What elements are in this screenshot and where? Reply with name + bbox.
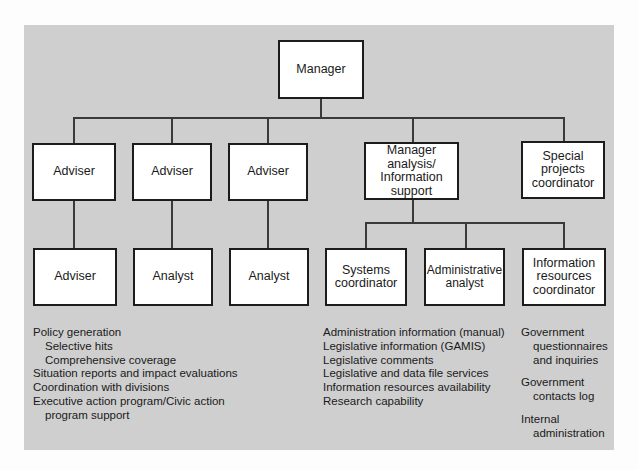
- note-line: Research capability: [323, 395, 505, 409]
- node-analyst: Analyst: [133, 248, 213, 306]
- node-analyst: Analyst: [229, 248, 309, 306]
- node-adviser: Adviser: [132, 143, 212, 201]
- note-line: Policy generation: [33, 326, 238, 340]
- note-line: Situation reports and impact evaluations: [33, 367, 238, 381]
- note-line: Government: [521, 326, 608, 340]
- notes-left: Policy generation Selective hits Compreh…: [33, 326, 238, 423]
- connector: [563, 222, 565, 248]
- note-line: administration: [521, 427, 608, 441]
- note-line: Legislative information (GAMIS): [323, 340, 505, 354]
- note-line: program support: [33, 409, 238, 423]
- connector: [412, 117, 414, 143]
- node-information-resources: Information resources coordinator: [522, 248, 606, 306]
- connector: [563, 117, 565, 142]
- connector: [171, 200, 173, 248]
- connector: [73, 117, 564, 119]
- node-adviser: Adviser: [32, 143, 116, 201]
- note-line: Comprehensive coverage: [33, 354, 238, 368]
- connector: [465, 222, 467, 248]
- node-adviser: Adviser: [33, 248, 117, 306]
- notes-middle: Administration information (manual) Legi…: [323, 326, 505, 409]
- note-line: questionnaires: [521, 340, 608, 354]
- node-manager: Manager: [278, 40, 364, 99]
- note-line: Administration information (manual): [323, 326, 505, 340]
- connector: [320, 98, 322, 119]
- note-line: Information resources availability: [323, 381, 505, 395]
- connector: [73, 200, 75, 248]
- note-line: and inquiries: [521, 354, 608, 368]
- note-line: Legislative comments: [323, 354, 505, 368]
- connector: [267, 117, 269, 144]
- node-special-projects: Special projects coordinator: [521, 141, 605, 199]
- note-line: contacts log: [521, 390, 608, 404]
- connector: [73, 117, 75, 144]
- node-manager-analysis: Manager analysis/ Information support: [364, 142, 459, 200]
- node-adviser: Adviser: [228, 143, 308, 201]
- note-line: Internal: [521, 413, 608, 427]
- notes-right: Government questionnaires and inquiries …: [521, 326, 608, 441]
- node-systems-coordinator: Systems coordinator: [325, 248, 407, 306]
- note-line: Legislative and data file services: [323, 367, 505, 381]
- note-line: Selective hits: [33, 340, 238, 354]
- connector: [412, 199, 414, 224]
- note-line: Government: [521, 376, 608, 390]
- connector: [171, 117, 173, 144]
- note-line: Executive action program/Civic action: [33, 395, 238, 409]
- node-administrative-analyst: Administrative analyst: [424, 248, 505, 306]
- connector: [267, 200, 269, 248]
- connector: [365, 222, 367, 248]
- note-line: Coordination with divisions: [33, 381, 238, 395]
